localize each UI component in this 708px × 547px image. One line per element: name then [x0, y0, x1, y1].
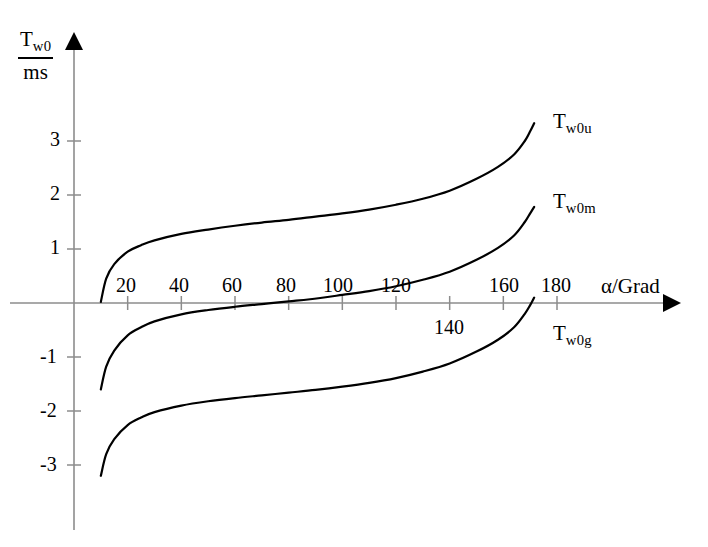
- curve-t-w0m: [101, 207, 534, 390]
- axes-layer: [10, 32, 681, 530]
- chart-figure: Tw0 ms α/Grad 3 2 1 -1 -2 -3 20 40 60 80…: [0, 0, 708, 547]
- x-axis-arrow-icon: [663, 294, 681, 312]
- y-axis-arrow-icon: [65, 32, 83, 50]
- curve-t-w0g: [101, 298, 534, 476]
- curves-layer: [101, 123, 534, 476]
- curve-t-w0u: [101, 123, 534, 302]
- plot-area: [0, 0, 708, 547]
